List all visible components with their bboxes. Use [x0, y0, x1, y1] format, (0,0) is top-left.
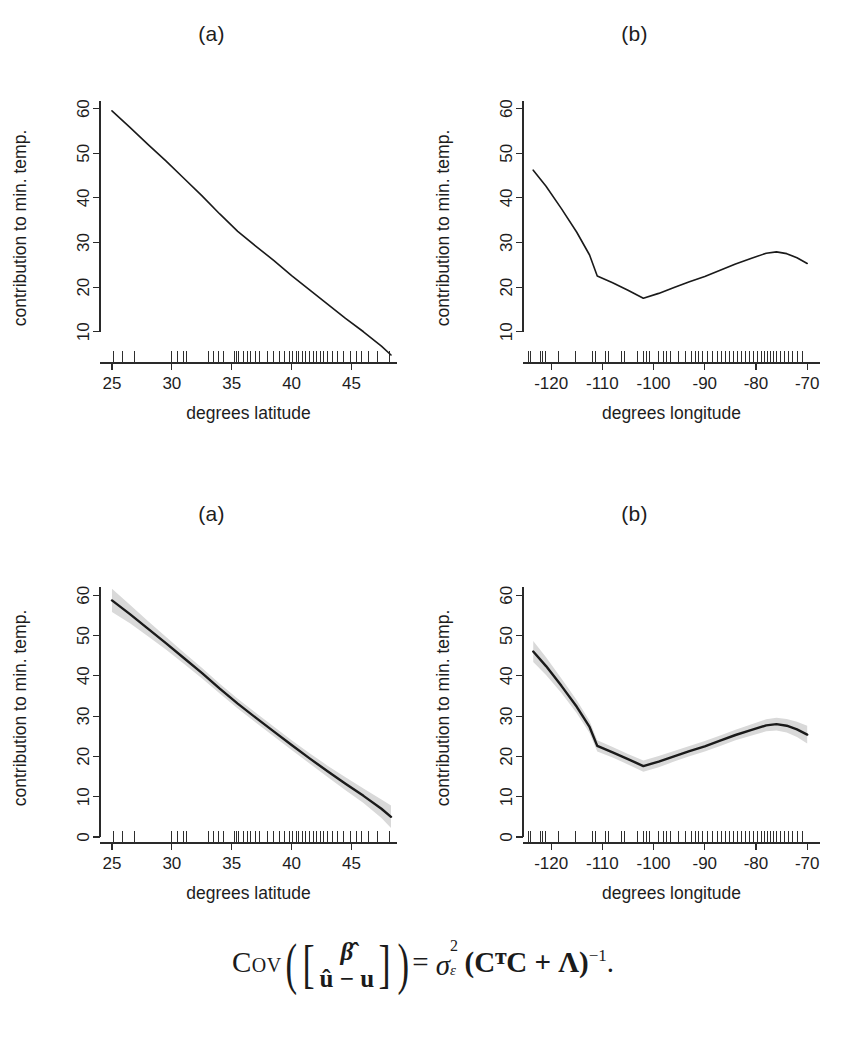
panel-title-a-bottom: (a)	[0, 502, 423, 526]
formula-operator: Cov	[232, 946, 282, 978]
y-tick-label-top-b-3: 40	[498, 188, 517, 207]
formula-inverse-exponent: −1	[589, 946, 607, 965]
x-tick-label-bottom-b-1: -110	[586, 854, 619, 873]
chart-bottom-a: 01020304050602530354045contribution to m…	[0, 535, 423, 939]
chart-svg-bottom-a: 01020304050602530354045contribution to m…	[0, 535, 423, 935]
y-tick-label-bottom-b-3: 30	[498, 707, 517, 726]
y-tick-label-bottom-a-1: 10	[75, 787, 94, 806]
x-tick-label-top-b-4: -80	[744, 374, 769, 393]
y-tick-label-bottom-a-5: 50	[75, 626, 94, 645]
y-tick-label-top-a-3: 40	[75, 188, 94, 207]
formula-sigma-subscript: ε	[450, 963, 456, 978]
panel-top-a: (a) 1020304050602530354045contribution t…	[0, 0, 423, 460]
covariance-formula-block: Cov([β̂û − u])= σ2ε (CᵀC + Λ)−1.	[0, 938, 846, 992]
y-tick-label-bottom-b-4: 40	[498, 666, 517, 685]
panel-row-bottom: (a) 01020304050602530354045contribution …	[0, 480, 846, 940]
formula-sigma-term: σ2ε	[436, 951, 450, 980]
figure-page: (a) 1020304050602530354045contribution t…	[0, 0, 846, 1061]
covariance-formula: Cov([β̂û − u])= σ2ε (CᵀC + Λ)−1.	[232, 938, 614, 992]
formula-equals: =	[412, 946, 428, 978]
x-tick-label-top-b-0: -120	[534, 374, 568, 393]
formula-matrix-expression: (CᵀC + Λ)	[465, 946, 589, 978]
x-tick-label-bottom-a-1: 30	[162, 854, 181, 873]
confidence-band-bottom-a	[112, 589, 391, 828]
formula-matrix: β̂û − u	[318, 938, 377, 992]
panel-title-b-bottom: (b)	[423, 502, 846, 526]
y-axis-title-bottom-a: contribution to min. temp.	[10, 610, 30, 806]
x-tick-label-top-a-3: 40	[282, 374, 301, 393]
y-tick-label-top-b-0: 10	[498, 322, 517, 341]
rug-marks-top-a	[113, 351, 390, 363]
y-tick-label-bottom-a-3: 30	[75, 707, 94, 726]
y-tick-label-top-a-1: 20	[75, 278, 94, 297]
y-tick-label-bottom-a-6: 60	[75, 586, 94, 605]
panel-title-a-top: (a)	[0, 22, 423, 46]
formula-close-paren: )	[397, 942, 409, 987]
panel-bottom-b: (b) 0102030405060-120-110-100-90-80-70co…	[423, 480, 846, 940]
formula-sigma-exponent: 2	[450, 938, 458, 954]
y-axis-title-top-a: contribution to min. temp.	[10, 130, 30, 326]
x-tick-label-bottom-b-2: -100	[637, 854, 671, 873]
y-tick-label-top-a-2: 30	[75, 233, 94, 252]
x-axis-title-bottom-a: degrees latitude	[186, 883, 311, 903]
y-tick-label-bottom-b-0: 0	[498, 832, 517, 841]
x-tick-label-bottom-b-4: -80	[744, 854, 769, 873]
x-tick-label-top-a-4: 45	[342, 374, 361, 393]
rug-marks-top-b	[529, 351, 803, 363]
y-tick-label-top-b-2: 30	[498, 233, 517, 252]
chart-top-b: 102030405060-120-110-100-90-80-70contrib…	[423, 55, 846, 459]
formula-matrix-row-1: β̂	[320, 938, 375, 965]
x-axis-title-top-b: degrees longitude	[602, 403, 741, 423]
y-axis-title-bottom-b: contribution to min. temp.	[433, 610, 453, 806]
rug-marks-bottom-b	[529, 831, 803, 843]
y-tick-label-bottom-a-2: 20	[75, 747, 94, 766]
panel-bottom-a: (a) 01020304050602530354045contribution …	[0, 480, 423, 940]
y-axis-title-top-b: contribution to min. temp.	[433, 130, 453, 326]
formula-matrix-row-2: û − u	[320, 965, 375, 992]
y-tick-label-bottom-b-5: 50	[498, 626, 517, 645]
panel-title-b-top: (b)	[423, 22, 846, 46]
data-curve-top-b	[533, 170, 807, 298]
panel-top-b: (b) 102030405060-120-110-100-90-80-70con…	[423, 0, 846, 460]
data-curve-top-a	[112, 111, 391, 355]
x-axis-title-bottom-b: degrees longitude	[602, 883, 741, 903]
y-tick-label-top-a-5: 60	[75, 99, 94, 118]
y-tick-label-bottom-a-0: 0	[75, 832, 94, 841]
x-tick-label-bottom-a-4: 45	[342, 854, 361, 873]
x-tick-label-top-b-2: -100	[637, 374, 671, 393]
x-axis-title-top-a: degrees latitude	[186, 403, 311, 423]
formula-open-paren: (	[285, 942, 297, 987]
y-tick-label-top-b-1: 20	[498, 278, 517, 297]
chart-top-a: 1020304050602530354045contribution to mi…	[0, 55, 423, 459]
chart-bottom-b: 0102030405060-120-110-100-90-80-70contri…	[423, 535, 846, 939]
confidence-band-bottom-b	[533, 641, 807, 772]
formula-period: .	[607, 946, 614, 978]
x-tick-label-top-b-1: -110	[586, 374, 619, 393]
y-tick-label-bottom-b-6: 60	[498, 586, 517, 605]
x-tick-label-top-a-1: 30	[162, 374, 181, 393]
rug-marks-bottom-a	[113, 831, 390, 843]
chart-svg-top-a: 1020304050602530354045contribution to mi…	[0, 55, 423, 455]
chart-svg-top-b: 102030405060-120-110-100-90-80-70contrib…	[423, 55, 846, 455]
formula-open-bracket: [	[303, 944, 315, 986]
y-tick-label-top-a-0: 10	[75, 322, 94, 341]
x-tick-label-bottom-b-5: -70	[795, 854, 820, 873]
x-tick-label-top-b-5: -70	[795, 374, 820, 393]
formula-sigma: σ	[436, 949, 450, 981]
x-tick-label-bottom-b-3: -90	[692, 854, 717, 873]
x-tick-label-bottom-a-0: 25	[103, 854, 122, 873]
x-tick-label-bottom-a-3: 40	[282, 854, 301, 873]
x-tick-label-top-b-3: -90	[692, 374, 717, 393]
y-tick-label-bottom-b-2: 20	[498, 747, 517, 766]
formula-close-bracket: ]	[379, 944, 391, 986]
x-tick-label-bottom-b-0: -120	[534, 854, 568, 873]
x-tick-label-top-a-2: 35	[222, 374, 241, 393]
y-tick-label-bottom-b-1: 10	[498, 787, 517, 806]
y-tick-label-top-b-4: 50	[498, 144, 517, 163]
y-tick-label-top-a-4: 50	[75, 144, 94, 163]
chart-svg-bottom-b: 0102030405060-120-110-100-90-80-70contri…	[423, 535, 846, 935]
caption-strip-cropped	[0, 1046, 846, 1061]
panel-row-top: (a) 1020304050602530354045contribution t…	[0, 0, 846, 460]
y-tick-label-top-b-5: 60	[498, 99, 517, 118]
x-tick-label-bottom-a-2: 35	[222, 854, 241, 873]
